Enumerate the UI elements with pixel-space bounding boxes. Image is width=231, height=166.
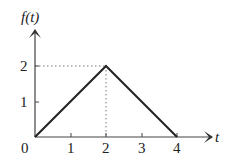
origin-label: 0 [21,140,29,156]
y-tick-label-2: 2 [20,58,28,74]
x-axis-label: t [215,129,220,145]
x-tick-label-4: 4 [173,140,181,156]
chart: f(t) t 0 1 2 3 4 1 2 [0,0,231,166]
x-tick-label-1: 1 [67,140,75,156]
y-axis-label: f(t) [21,9,39,26]
x-tick-label-2: 2 [102,140,110,156]
x-tick-label-3: 3 [138,140,146,156]
y-tick-label-1: 1 [20,94,28,110]
